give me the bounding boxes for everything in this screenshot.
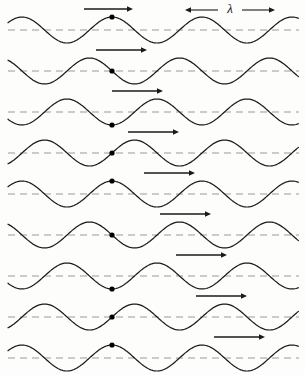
wave-row [8, 88, 299, 127]
particle-dot [109, 150, 114, 155]
particle-dot [109, 314, 114, 319]
propagation-arrow-head [205, 211, 211, 217]
wave-row [8, 293, 299, 330]
wave-row [8, 334, 299, 371]
propagation-arrow [128, 129, 179, 135]
wave-rows-group [8, 6, 299, 371]
propagation-arrow [176, 252, 227, 258]
particle-dot [109, 232, 114, 237]
wave-row [8, 129, 299, 166]
propagation-arrow-head [141, 47, 147, 53]
propagation-arrow [84, 6, 133, 12]
propagation-arrow-head [241, 293, 247, 299]
wave-propagation-figure: λ [0, 0, 305, 375]
propagation-arrow-head [259, 334, 265, 340]
wave-row [8, 252, 299, 291]
particle-dot [109, 14, 114, 19]
wave-row [8, 211, 299, 248]
wave-row [8, 170, 299, 207]
propagation-arrow [144, 170, 195, 176]
propagation-arrow-head [173, 129, 179, 135]
wave-row [8, 6, 299, 43]
propagation-arrow [160, 211, 211, 217]
propagation-arrow-head [221, 252, 227, 258]
particle-dot [109, 68, 114, 73]
propagation-arrow-head [189, 170, 195, 176]
propagation-arrow-head [127, 6, 133, 12]
propagation-arrow [196, 293, 247, 299]
propagation-arrow [112, 88, 163, 94]
wavelength-marker: λ [185, 1, 275, 16]
wavelength-right-arrowhead [269, 7, 275, 13]
wave-row [8, 47, 299, 84]
wavelength-label: λ [226, 1, 233, 16]
propagation-arrow [214, 334, 265, 340]
particle-dot [109, 286, 114, 291]
wave-diagram-canvas: λ [0, 0, 305, 375]
particle-dot [109, 178, 114, 183]
propagation-arrow [96, 47, 147, 53]
wavelength-left-arrowhead [185, 7, 191, 13]
particle-dot [109, 342, 114, 347]
propagation-arrow-head [157, 88, 163, 94]
particle-dot [109, 122, 114, 127]
